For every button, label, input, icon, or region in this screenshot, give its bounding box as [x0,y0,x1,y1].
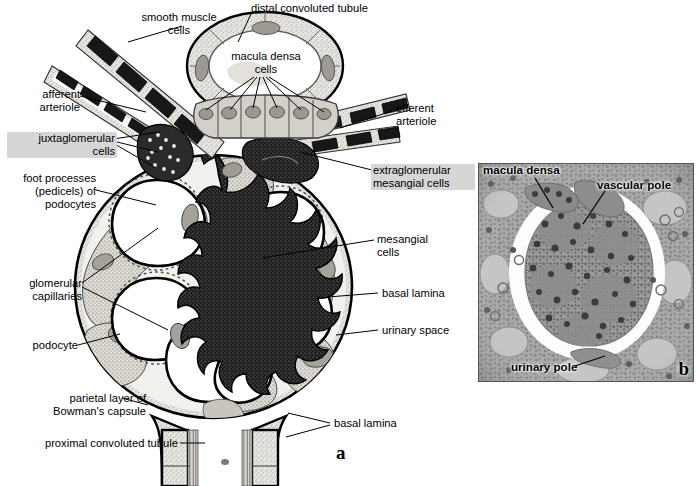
label-basal-lamina-right: basal lamina [382,287,445,300]
label-foot-processes-podocytes: foot processes (pedicels) of podocytes [4,172,96,212]
label-efferent-arteriole: efferent arteriole [396,102,436,128]
label-parietal-layer-bowmans-capsule: parietal layer of Bowman's capsule [6,392,146,418]
photomicrograph-panel: macula densa vascular pole urinary pole … [478,163,694,382]
brush-border-right [242,430,252,486]
label-mesangial-cells: mesangial cells [377,233,428,259]
panel-a-letter: a [336,442,346,464]
label-proximal-convoluted-tubule: proximal convoluted tubule [6,437,178,450]
label-smooth-muscle-cells: smooth muscle cells [121,11,237,37]
capillary-upper-left [112,180,205,266]
brush-border-left [188,430,198,486]
photo-label-vascular-pole: vascular pole [597,178,671,191]
label-basal-lamina-bottom: basal lamina [334,417,397,430]
label-distal-convoluted-tubule: distal convoluted tubule [251,2,368,15]
label-macula-densa-cells: macula densa cells [218,50,314,76]
macula-densa-cells [194,95,339,138]
figure-root: smooth muscle cells distal convoluted tu… [0,0,696,486]
photo-label-macula-densa: macula densa [483,163,560,176]
photo-label-urinary-pole: urinary pole [511,360,577,373]
label-afferent-arteriole: afferent arteriole [10,88,80,114]
panel-b-letter: b [678,358,689,380]
label-urinary-space: urinary space [382,324,449,337]
label-podocyte: podocyte [4,339,78,352]
label-glomerular-capillaries: glomerular capillaries [4,277,82,303]
proximal-convoluted-tubule [152,416,286,486]
label-juxtaglomerular-cells: juxtaglomerular cells [7,132,117,158]
label-extraglomerular-mesangial-cells: extraglomerular mesangial cells [371,164,475,190]
